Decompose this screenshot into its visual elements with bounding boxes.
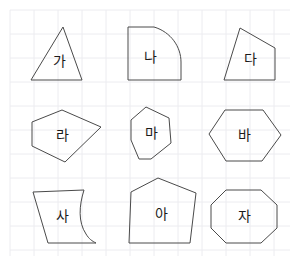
shape-da-label: 다 xyxy=(244,52,257,66)
shape-a-label: 아 xyxy=(155,207,168,221)
worksheet-canvas: 가나다라마바사아자 xyxy=(0,0,297,267)
shape-sa-label: 사 xyxy=(56,209,69,223)
shape-ma-label: 마 xyxy=(145,126,158,140)
shape-ra-label: 라 xyxy=(56,128,69,142)
shape-na-label: 나 xyxy=(144,50,157,64)
shape-ba-label: 바 xyxy=(238,128,251,142)
shape-ja-label: 자 xyxy=(238,209,251,223)
shape-ga-label: 가 xyxy=(53,54,66,68)
